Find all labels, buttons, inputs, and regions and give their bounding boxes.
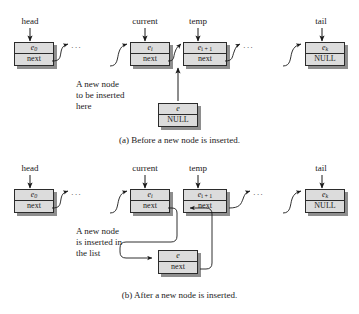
node-link-cell: NULL	[305, 201, 345, 213]
node-current: ei next	[130, 42, 170, 66]
node-temp: ei + 1 next	[183, 189, 227, 213]
node-element-cell: ek	[305, 189, 345, 201]
node-new: e NULL	[158, 103, 198, 127]
pointer-label-current: current	[124, 16, 166, 26]
node-link-cell: next	[14, 201, 54, 213]
ellipsis-after-temp: ···	[243, 43, 254, 52]
node-link-cell: next	[158, 262, 198, 274]
node-index-label: i	[151, 46, 153, 52]
pointer-label-head: head	[10, 16, 50, 26]
node-link-cell: next	[14, 54, 54, 66]
pointer-label-head: head	[10, 163, 50, 173]
node-new: e next	[158, 250, 198, 274]
node-element-cell: ek	[305, 42, 345, 54]
node-tail: ek NULL	[305, 42, 345, 66]
node-element-cell: e	[158, 103, 198, 115]
pointer-label-temp: temp	[180, 16, 216, 26]
node-index-label: i	[151, 193, 153, 199]
node-link-cell: NULL	[158, 115, 198, 127]
node-element-cell: ei + 1	[183, 189, 227, 201]
ellipsis-after-temp: ···	[253, 190, 264, 199]
node-link-cell: next	[130, 54, 170, 66]
annotation-line-3: here	[76, 101, 92, 112]
caption-panel-b: (b) After a new node is inserted.	[0, 290, 359, 300]
ellipsis-after-head: ···	[71, 43, 82, 52]
annotation-line-1: A new node	[76, 79, 119, 90]
node-current: ei next	[130, 189, 170, 213]
panel-after-insertion: head current temp tail e0 next ei next e…	[0, 157, 359, 314]
node-temp: ei + 1 next	[183, 42, 227, 66]
node-index-label: 0	[34, 46, 37, 52]
panel-before-insertion: head current temp tail e0 next ei next e…	[0, 0, 359, 157]
node-element-label: e	[176, 104, 180, 113]
node-index-label: i + 1	[201, 193, 212, 199]
node-index-label: k	[325, 193, 328, 199]
node-element-cell: ei	[130, 189, 170, 201]
node-index-label: 0	[34, 193, 37, 199]
node-link-cell: NULL	[305, 54, 345, 66]
pointer-label-tail: tail	[303, 163, 339, 173]
pointer-label-current: current	[124, 163, 166, 173]
node-element-cell: e	[158, 250, 198, 262]
node-link-cell: next	[183, 54, 227, 66]
node-index-label: k	[325, 46, 328, 52]
node-element-label: e	[176, 251, 180, 260]
node-element-cell: ei + 1	[183, 42, 227, 54]
node-tail: ek NULL	[305, 189, 345, 213]
node-element-cell: ei	[130, 42, 170, 54]
annotation-line-3: the list	[76, 248, 100, 259]
caption-panel-a: (a) Before a new node is inserted.	[0, 135, 359, 145]
pointer-label-temp: temp	[180, 163, 216, 173]
node-head: e0 next	[14, 189, 54, 213]
annotation-line-1: A new node	[76, 226, 119, 237]
node-element-cell: e0	[14, 42, 54, 54]
annotation-line-2: to be inserted	[76, 90, 125, 101]
node-link-cell: next	[130, 201, 170, 213]
ellipsis-after-head: ···	[71, 190, 82, 199]
node-head: e0 next	[14, 42, 54, 66]
pointer-label-tail: tail	[303, 16, 339, 26]
node-index-label: i + 1	[201, 46, 212, 52]
node-element-cell: e0	[14, 189, 54, 201]
node-link-cell: next	[183, 201, 227, 213]
annotation-line-2: is inserted in	[76, 237, 122, 248]
linked-list-insertion-figure: head current temp tail e0 next ei next e…	[0, 0, 359, 314]
